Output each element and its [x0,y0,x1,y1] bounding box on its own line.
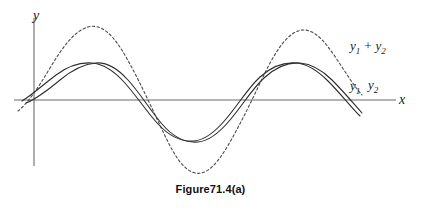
curve-label-y1: y1 [350,79,360,96]
curve-label-y2-sub: 2 [374,85,379,95]
figure-container: y x y1 + y2 y1 y2 Figure71.4(a) [0,0,421,211]
figure-caption: Figure71.4(a) [0,183,421,195]
curve-label-sum: y1 + y2 [350,39,386,56]
sine-superposition-plot [0,0,421,211]
curve-label-sum-operator: + [360,38,375,53]
curve-label-y1-sub: 1 [356,86,361,96]
x-axis-label: x [399,93,405,107]
curve-y1 [22,63,360,141]
curve-label-y2: y2 [368,78,378,95]
y-axis-label: y [33,9,39,23]
curve-label-sum-sub2: 2 [381,46,386,56]
curve-y2 [26,63,362,142]
